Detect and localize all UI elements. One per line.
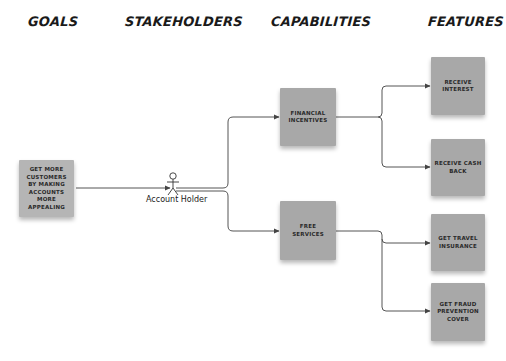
- stick-figure-actor-icon: [167, 173, 179, 195]
- capability-label: FREE SERVICES: [280, 223, 336, 238]
- capability-box-free-services[interactable]: FREE SERVICES: [280, 201, 336, 260]
- capability-label: FINANCIAL INCENTIVES: [280, 110, 336, 125]
- feature-box-receive-cash-back[interactable]: RECEIVE CASH BACK: [431, 139, 485, 196]
- capability-box-financial-incentives[interactable]: FINANCIAL INCENTIVES: [280, 88, 336, 146]
- goal-label: GET MORE CUSTOMERS BY MAKING ACCOUNTS MO…: [19, 166, 74, 211]
- feature-label: GET TRAVEL INSURANCE: [431, 235, 485, 250]
- feature-box-receive-interest[interactable]: RECEIVE INTEREST: [431, 57, 485, 115]
- goal-box[interactable]: GET MORE CUSTOMERS BY MAKING ACCOUNTS MO…: [19, 160, 74, 217]
- feature-label: RECEIVE CASH BACK: [431, 160, 485, 175]
- feature-label: RECEIVE INTEREST: [431, 79, 485, 94]
- feature-box-get-travel-insurance[interactable]: GET TRAVEL INSURANCE: [431, 214, 485, 271]
- feature-label: GET FRAUD PREVENTION COVER: [431, 301, 485, 324]
- stakeholder-label: Account Holder: [146, 195, 207, 204]
- feature-box-get-fraud-prevention-cover[interactable]: GET FRAUD PREVENTION COVER: [431, 283, 485, 341]
